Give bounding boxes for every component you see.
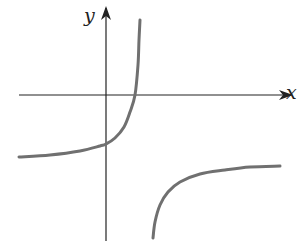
curve-right-branch: [153, 166, 280, 238]
x-axis-label: x: [286, 83, 297, 102]
y-axis-label: y: [84, 6, 95, 25]
chart: [0, 0, 301, 243]
curve-left-branch: [19, 20, 140, 157]
